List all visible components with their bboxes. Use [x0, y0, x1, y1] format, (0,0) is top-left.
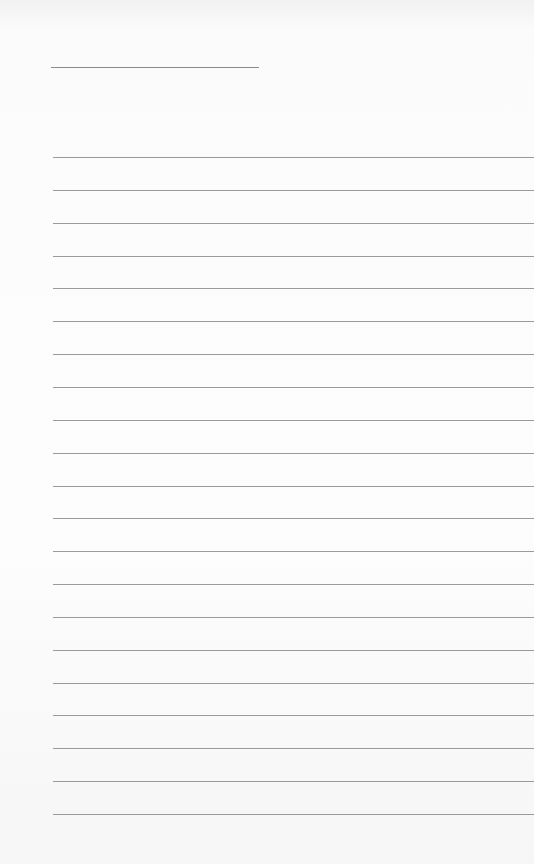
lined-paper-sheet	[0, 0, 534, 864]
ruled-line	[53, 518, 534, 519]
ruled-line	[53, 617, 534, 618]
ruled-line	[53, 551, 534, 552]
ruled-line	[53, 715, 534, 716]
ruled-line	[53, 157, 534, 158]
ruled-line	[53, 354, 534, 355]
ruled-line	[53, 584, 534, 585]
ruled-line	[53, 781, 534, 782]
ruled-line	[53, 814, 534, 815]
ruled-line	[53, 256, 534, 257]
ruled-line	[53, 420, 534, 421]
ruled-line	[53, 190, 534, 191]
ruled-line	[53, 321, 534, 322]
ruled-line	[53, 387, 534, 388]
ruled-line	[53, 223, 534, 224]
ruled-line	[53, 486, 534, 487]
ruled-line	[53, 650, 534, 651]
title-underline	[51, 67, 259, 68]
ruled-line	[53, 453, 534, 454]
ruled-line	[53, 288, 534, 289]
ruled-line	[53, 748, 534, 749]
ruled-line	[53, 683, 534, 684]
